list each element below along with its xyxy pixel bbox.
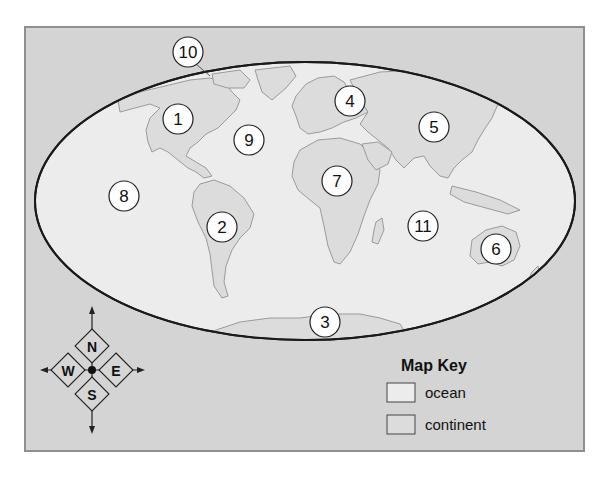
label-number-11: 11 xyxy=(414,217,432,236)
map-key-title: Map Key xyxy=(401,357,467,374)
label-marker-5[interactable]: 5 xyxy=(419,112,449,142)
label-number-10: 10 xyxy=(179,43,198,62)
compass-west-label: W xyxy=(61,363,75,379)
world-map: 10 1 9 4 5 7 8 2 11 6 3 xyxy=(0,0,609,477)
compass-north-label: N xyxy=(87,339,97,355)
key-swatch-ocean xyxy=(387,383,415,402)
label-marker-7[interactable]: 7 xyxy=(322,166,352,196)
label-marker-10[interactable]: 10 xyxy=(173,37,203,67)
key-swatch-continent xyxy=(387,415,415,434)
label-number-4: 4 xyxy=(345,92,354,111)
label-number-6: 6 xyxy=(491,240,500,259)
label-marker-1[interactable]: 1 xyxy=(163,104,193,134)
label-marker-8[interactable]: 8 xyxy=(109,181,139,211)
label-number-3: 3 xyxy=(320,313,329,332)
label-number-9: 9 xyxy=(244,131,253,150)
label-number-8: 8 xyxy=(119,187,128,206)
label-number-7: 7 xyxy=(332,172,341,191)
label-marker-6[interactable]: 6 xyxy=(481,234,511,264)
label-marker-4[interactable]: 4 xyxy=(335,86,365,116)
label-number-1: 1 xyxy=(173,110,182,129)
label-number-2: 2 xyxy=(217,218,226,237)
label-marker-3[interactable]: 3 xyxy=(310,307,340,337)
label-marker-11[interactable]: 11 xyxy=(408,211,438,241)
key-label-ocean: ocean xyxy=(425,384,466,401)
label-number-5: 5 xyxy=(429,118,438,137)
label-marker-2[interactable]: 2 xyxy=(207,212,237,242)
compass-center-dot xyxy=(88,366,96,374)
compass-east-label: E xyxy=(111,363,120,379)
key-label-continent: continent xyxy=(425,416,487,433)
compass-south-label: S xyxy=(87,387,96,403)
label-marker-9[interactable]: 9 xyxy=(234,125,264,155)
